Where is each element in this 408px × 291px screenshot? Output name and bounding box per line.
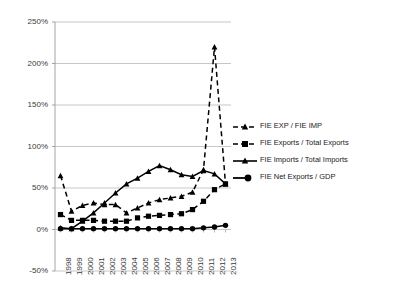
data-point (124, 226, 129, 231)
data-point (80, 226, 85, 231)
data-point (69, 226, 74, 231)
data-point (69, 218, 74, 223)
data-point (58, 226, 63, 231)
x-axis-tick-label: 1999 (75, 257, 84, 275)
data-point (113, 226, 118, 231)
data-point (179, 226, 184, 231)
series-line (61, 225, 226, 228)
data-point (168, 226, 173, 231)
data-point (190, 226, 195, 231)
y-axis-tick-label: 250% (14, 17, 48, 26)
legend-key-solid-circle-icon (232, 170, 258, 182)
data-point (201, 199, 206, 204)
x-axis-tick-label: 2012 (218, 257, 227, 275)
y-axis-tick-label: 50% (14, 183, 48, 192)
data-point (223, 223, 228, 228)
chart-container: -50%0%50%100%150%200%250% 19981999200020… (0, 0, 408, 291)
legend-item-3[interactable]: FIE Net Exports / GDP (232, 169, 404, 183)
x-axis-tick-label: 2010 (196, 257, 205, 275)
x-axis-tick-label: 2004 (130, 257, 139, 275)
legend-label-2: FIE Imports / Total Imports (258, 155, 348, 164)
x-axis-tick-label: 2001 (97, 257, 106, 275)
x-axis-tick-label: 2005 (141, 257, 150, 275)
legend-item-1[interactable]: FIE Exports / Total Exports (232, 135, 404, 149)
x-axis-tick-label: 2003 (119, 257, 128, 275)
y-axis-tick-label: 0% (14, 225, 48, 234)
data-point (69, 208, 75, 214)
data-point (179, 211, 184, 216)
x-axis-tick-label: 2008 (174, 257, 183, 275)
data-point (146, 214, 151, 219)
data-point (157, 226, 162, 231)
data-point (58, 173, 64, 179)
x-axis-tick-label: 2000 (86, 257, 95, 275)
data-point (102, 226, 107, 231)
series-line (61, 184, 226, 221)
legend-key-dashed-triangle-icon (232, 119, 258, 131)
legend-label-1: FIE Exports / Total Exports (258, 138, 349, 147)
series-line (61, 166, 226, 229)
y-axis-tick-label: -50% (14, 266, 48, 275)
legend-key-solid-triangle-icon (232, 153, 258, 165)
data-point (135, 215, 140, 220)
legend-item-2[interactable]: FIE Imports / Total Imports (232, 152, 404, 166)
data-point (91, 218, 96, 223)
x-axis-tick-label: 2007 (163, 257, 172, 275)
data-point (168, 212, 173, 217)
x-axis-tick-label: 2002 (108, 257, 117, 275)
data-point (135, 226, 140, 231)
data-point (146, 226, 151, 231)
data-point (212, 187, 217, 192)
x-axis-tick-label: 2009 (185, 257, 194, 275)
x-axis-tick-label: 2011 (207, 258, 216, 275)
data-point (91, 226, 96, 231)
x-axis-tick-label: 2006 (152, 257, 161, 275)
data-point (212, 224, 217, 229)
legend-key-dashed-square-icon (232, 136, 258, 148)
legend-label-0: FIE EXP / FIE IMP (258, 121, 322, 130)
legend-item-0[interactable]: FIE EXP / FIE IMP (232, 118, 404, 132)
data-point (201, 225, 206, 230)
data-point (146, 169, 152, 175)
x-axis-tick-label: 1998 (64, 257, 73, 275)
chart-legend: FIE EXP / FIE IMP FIE Exports / Total Ex… (232, 118, 404, 186)
data-point (212, 44, 218, 50)
data-point (190, 189, 196, 195)
y-axis-tick-label: 150% (14, 100, 48, 109)
data-point (102, 219, 107, 224)
y-axis-tick-label: 100% (14, 142, 48, 151)
x-axis-tick-label: 2013 (229, 257, 238, 275)
legend-label-3: FIE Net Exports / GDP (258, 172, 335, 181)
data-point (157, 213, 162, 218)
data-point (190, 207, 195, 212)
y-axis-tick-label: 200% (14, 59, 48, 68)
data-point (124, 219, 129, 224)
data-point (113, 219, 118, 224)
data-point (157, 163, 163, 169)
data-point (124, 181, 130, 187)
data-point (58, 212, 63, 217)
